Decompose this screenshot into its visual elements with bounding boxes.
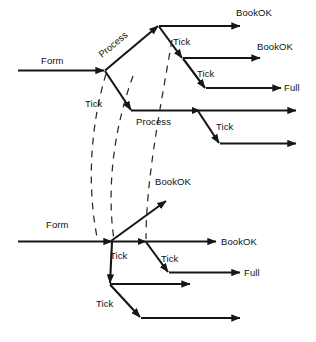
label-tick-middle-right: Tick [216, 121, 234, 132]
label-tick-lower-left: Tick [110, 250, 128, 261]
label-bookok-top: BookOK [236, 7, 273, 18]
label-tick-lower-bottom: Tick [96, 298, 114, 309]
dashed-curve-3 [146, 40, 172, 239]
label-full-lower: Full [244, 267, 260, 278]
label-form-lower: Form [46, 219, 69, 230]
edge-bookok-lower-diagonal [111, 201, 166, 241]
label-process-middle: Process [136, 116, 171, 127]
edge-tick-upper-left [105, 71, 131, 110]
dashed-curve-2 [111, 76, 133, 240]
label-tick-upper-right-1: Tick [173, 36, 191, 47]
label-tick-upper-left: Tick [85, 98, 103, 109]
edge-tick-lower-left [110, 242, 112, 283]
event-trace-diagram: Form Process Tick Tick Tick Process Tick… [0, 0, 316, 342]
label-bookok-lower-diagonal: BookOK [155, 176, 192, 187]
label-full-upper: Full [284, 82, 300, 93]
label-tick-upper-right-2: Tick [197, 68, 215, 79]
edge-tick-lower-bottom [110, 285, 140, 318]
label-bookok-second: BookOK [257, 41, 294, 52]
label-bookok-lower: BookOK [221, 236, 258, 247]
diagram-canvas: Form Process Tick Tick Tick Process Tick… [0, 0, 316, 342]
label-tick-lower-middle: Tick [161, 253, 179, 264]
label-form-upper: Form [41, 55, 64, 66]
